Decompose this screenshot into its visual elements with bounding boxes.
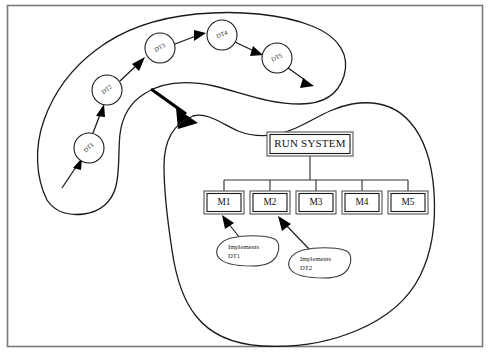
outer-border	[8, 6, 483, 347]
module-box-m4[interactable]: M4	[342, 191, 382, 214]
dt-node-dt5[interactable]: DT5	[262, 43, 292, 73]
flow-arrow-entry-dt1	[62, 158, 82, 188]
module-label: M4	[355, 197, 368, 207]
annotation-line2: DT2	[300, 264, 312, 271]
transition-arrow	[151, 89, 198, 129]
flow-arrow-dt4-dt5	[235, 42, 263, 56]
flow-arrow-dt5-exit	[288, 68, 314, 88]
module-box-m2[interactable]: M2	[250, 191, 290, 214]
dt-node-dt2[interactable]: DT2	[92, 75, 122, 105]
module-box-m3[interactable]: M3	[296, 191, 336, 214]
annotation-implements-dt2[interactable]: Implements DT2	[278, 216, 351, 278]
module-label: M5	[401, 197, 414, 207]
tree-connectors	[224, 155, 408, 192]
annotation-line1: Implements	[300, 255, 332, 262]
annotation-line2: DT1	[228, 252, 240, 259]
flow-arrow-dt1-dt2	[93, 104, 105, 133]
design-technique-cloud	[38, 13, 346, 215]
module-label: M1	[217, 197, 230, 207]
run-system-label: RUN SYSTEM	[274, 137, 345, 149]
module-label: M3	[309, 197, 322, 207]
flow-arrow-dt2-dt3	[120, 57, 145, 81]
annotation-line1: Implements	[228, 243, 260, 250]
run-system-box[interactable]: RUN SYSTEM	[267, 132, 353, 156]
dt-node-dt4[interactable]: DT4	[207, 20, 237, 50]
dt-node-dt1[interactable]: DT1	[74, 133, 104, 163]
annotation-implements-dt1[interactable]: Implements DT1	[217, 215, 279, 266]
diagram-canvas: DT1 DT2 DT3 DT4 DT5	[0, 0, 489, 357]
module-box-m5[interactable]: M5	[388, 191, 428, 214]
module-box-m1[interactable]: M1	[204, 191, 244, 214]
module-label: M2	[263, 197, 276, 207]
flow-arrow-dt3-dt4	[175, 30, 206, 44]
diagram-svg: DT1 DT2 DT3 DT4 DT5	[0, 0, 489, 357]
dt-node-dt3[interactable]: DT3	[145, 33, 175, 63]
